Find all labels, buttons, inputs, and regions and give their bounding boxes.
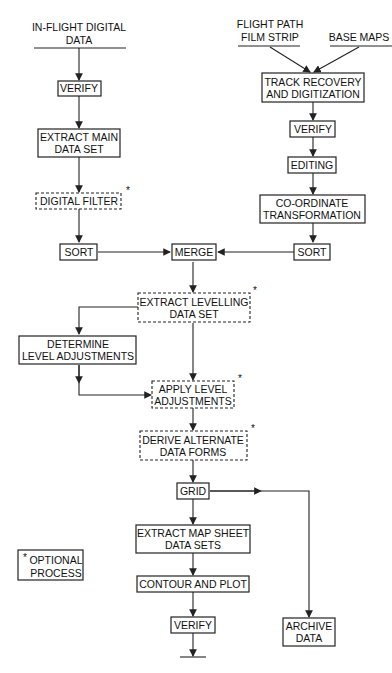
node-label: VERIFY bbox=[294, 123, 332, 135]
source-label-line1: IN-FLIGHT DIGITAL bbox=[32, 21, 126, 33]
node-label-line1: DETERMINE bbox=[47, 338, 109, 350]
node-extract-levelling-data-set: EXTRACT LEVELLING DATA SET * bbox=[138, 285, 257, 322]
node-derive-alternate-data-forms: DERIVE ALTERNATE DATA FORMS * bbox=[140, 423, 255, 460]
node-determine-level-adjustments: DETERMINE LEVEL ADJUSTMENTS bbox=[19, 336, 136, 364]
node-archive-data: ARCHIVE DATA bbox=[283, 618, 335, 646]
node-verify-3: VERIFY bbox=[171, 617, 215, 633]
node-label-line1: DERIVE ALTERNATE bbox=[142, 434, 244, 446]
optional-asterisk: * bbox=[253, 285, 257, 296]
node-label-line1: EXTRACT MAP SHEET bbox=[137, 527, 250, 539]
node-label-line2: TRANSFORMATION bbox=[263, 209, 361, 221]
optional-asterisk: * bbox=[251, 423, 255, 434]
node-label-line1: CO-ORDINATE bbox=[276, 197, 349, 209]
node-label-line2: DATA FORMS bbox=[160, 446, 227, 458]
node-label-line2: LEVEL ADJUSTMENTS bbox=[22, 350, 134, 362]
node-contour-and-plot: CONTOUR AND PLOT bbox=[137, 576, 249, 592]
node-editing: EDITING bbox=[288, 157, 336, 173]
node-digital-filter: DIGITAL FILTER * bbox=[36, 185, 130, 209]
node-label: DIGITAL FILTER bbox=[40, 195, 118, 207]
node-label-line2: DATA SET bbox=[54, 143, 104, 155]
legend-optional-process: * OPTIONAL PROCESS bbox=[18, 550, 83, 580]
source-flight-path-film-strip: FLIGHT PATH FILM STRIP bbox=[237, 18, 304, 46]
node-label-line2: DATA bbox=[296, 632, 322, 644]
node-coordinate-transformation: CO-ORDINATE TRANSFORMATION bbox=[260, 195, 365, 223]
node-label: MERGE bbox=[175, 246, 214, 258]
node-label-line1: EXTRACT LEVELLING bbox=[140, 296, 249, 308]
node-sort-right: SORT bbox=[294, 244, 330, 260]
node-label: EDITING bbox=[291, 159, 334, 171]
optional-asterisk: * bbox=[126, 185, 130, 196]
node-merge: MERGE bbox=[172, 244, 216, 260]
node-label: SORT bbox=[65, 246, 95, 258]
node-label-line2: DATA SETS bbox=[165, 539, 221, 551]
node-track-recovery: TRACK RECOVERY AND DIGITIZATION bbox=[262, 73, 364, 102]
node-grid: GRID bbox=[177, 483, 209, 499]
edge-arrow bbox=[210, 491, 309, 617]
source-label: BASE MAPS bbox=[329, 31, 390, 43]
node-label-line1: APPLY LEVEL bbox=[159, 383, 228, 395]
node-label-line2: DATA SET bbox=[169, 308, 219, 320]
node-extract-main-data-set: EXTRACT MAIN DATA SET bbox=[38, 129, 120, 157]
edge-arrow bbox=[314, 47, 359, 72]
node-extract-map-sheet-data-sets: EXTRACT MAP SHEET DATA SETS bbox=[136, 525, 250, 553]
edge-arrow bbox=[270, 47, 310, 72]
source-label-line2: DATA bbox=[66, 34, 92, 46]
source-base-maps: BASE MAPS bbox=[329, 31, 392, 46]
edge-arrow bbox=[79, 365, 151, 395]
node-sort-left: SORT bbox=[60, 244, 97, 260]
node-label: CONTOUR AND PLOT bbox=[139, 578, 247, 590]
source-label-line1: FLIGHT PATH bbox=[237, 18, 304, 30]
node-label: VERIFY bbox=[60, 82, 98, 94]
optional-asterisk: * bbox=[238, 373, 242, 384]
flowchart: IN-FLIGHT DIGITAL DATA FLIGHT PATH FILM … bbox=[0, 0, 392, 673]
node-label: GRID bbox=[180, 485, 207, 497]
node-label: SORT bbox=[298, 246, 328, 258]
legend-asterisk: * bbox=[23, 552, 27, 563]
source-label-line2: FILM STRIP bbox=[241, 31, 299, 43]
node-label-line1: TRACK RECOVERY bbox=[264, 76, 361, 88]
node-label-line1: EXTRACT MAIN bbox=[40, 131, 118, 143]
legend-label-line2: PROCESS bbox=[30, 567, 81, 579]
node-verify-1: VERIFY bbox=[58, 81, 101, 96]
node-label: VERIFY bbox=[174, 619, 212, 631]
legend-label-line1: OPTIONAL bbox=[29, 554, 82, 566]
edge-arrow bbox=[79, 307, 138, 334]
node-apply-level-adjustments: APPLY LEVEL ADJUSTMENTS * bbox=[152, 373, 242, 408]
node-label-line1: ARCHIVE bbox=[286, 620, 333, 632]
node-label-line2: AND DIGITIZATION bbox=[266, 88, 360, 100]
node-verify-2: VERIFY bbox=[290, 121, 335, 137]
source-in-flight-digital-data: IN-FLIGHT DIGITAL DATA bbox=[32, 21, 126, 48]
node-label-line2: ADJUSTMENTS bbox=[154, 395, 232, 407]
